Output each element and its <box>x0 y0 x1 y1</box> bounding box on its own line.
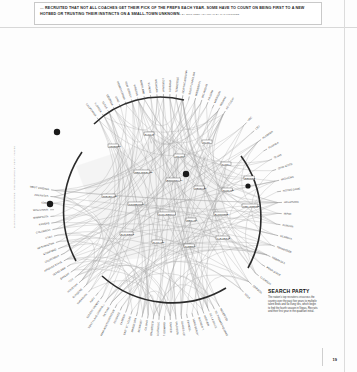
headline-line-1: … RECRUITED THAT NOT ALL COACHES GET THE… <box>40 6 284 10</box>
edge <box>241 142 276 224</box>
arc-tick <box>201 100 202 104</box>
arc-label: MISSISSIPPI <box>194 80 202 96</box>
arc-label: EVANGEL <box>186 320 192 333</box>
hub-node: TAMPA <box>221 162 231 166</box>
arc-label: UTAH <box>45 234 53 240</box>
arc-tick <box>115 304 117 308</box>
arc-tick <box>110 302 112 305</box>
arc-tick <box>268 159 272 161</box>
arc-tick <box>51 222 55 223</box>
arc-label: MICHIGAN <box>281 175 295 182</box>
arc-tick <box>56 241 60 242</box>
arc-label: FLORIDA <box>268 140 280 149</box>
hub-node-label: TAMPA <box>222 163 230 166</box>
hub-node-label: CLEVELAND <box>103 195 117 198</box>
hub-node-label: NEW ORLEANS <box>135 171 153 174</box>
arc-tick <box>75 275 78 277</box>
arc-tick <box>244 123 247 126</box>
page-number: 19 <box>333 357 337 362</box>
hub-node: PHILADELPHIA <box>158 212 176 216</box>
hub-node-label: ATLANTA <box>175 155 186 158</box>
arc-tick <box>71 270 74 272</box>
arc-label: MARYLAND <box>139 80 146 95</box>
arc-tick <box>148 315 149 319</box>
arc-tick <box>131 311 132 315</box>
arc-label: OKLAHOMA <box>200 83 209 98</box>
folio-divider <box>322 348 323 366</box>
hub-node-label: PHILADELPHIA <box>159 213 177 216</box>
arc-tick <box>150 95 151 99</box>
arc-tick <box>267 255 271 257</box>
hub-node-label: DALLAS <box>145 133 155 136</box>
hub-node: MIAMI <box>202 140 212 144</box>
arc-label: BERGEN CATHOLIC <box>155 322 161 336</box>
arc-tick <box>251 131 254 134</box>
hub-node-label: MEMPHIS <box>195 187 207 190</box>
arc-label: STANFORD <box>42 247 57 256</box>
hub-node-label: BIRMINGHAM <box>167 179 183 182</box>
arc-tick <box>212 105 214 109</box>
edge <box>67 257 170 316</box>
arc-label: GEORGIA <box>280 234 293 241</box>
arc-tick <box>64 259 68 261</box>
arc-label: OREGON <box>252 284 263 295</box>
arc-label: WEST VIRGINIA <box>30 185 50 192</box>
arc-label: TCU <box>68 277 75 284</box>
edge <box>58 232 101 259</box>
arc-label: VALDOSTA <box>175 321 180 335</box>
hub-node-label: PITTSBURGH <box>129 203 145 206</box>
arc-tick <box>223 111 225 114</box>
hub-node: CHICAGO <box>222 188 234 192</box>
hub-node: SAN DIEGO <box>120 232 134 236</box>
hub-node: BALTIMORE <box>214 212 229 216</box>
arc-label: GILMAN <box>143 320 149 331</box>
arc-label: MINNESOTA <box>33 214 49 219</box>
arc-tick <box>203 310 204 314</box>
arc-tick <box>126 309 127 313</box>
arc-label: NORTH CAROLINA <box>181 70 188 94</box>
side-credit: DIAGRAM BY CATALOGTREE · PHOTOGRAPHS BY … <box>13 127 15 247</box>
arc-label: DON BOSCO <box>149 321 155 336</box>
hub-node: LOS ANGELES <box>242 204 260 208</box>
magazine-page: … RECRUITED THAT NOT ALL COACHES GET THE… <box>0 0 357 372</box>
arc-label: INDIANA <box>219 95 228 106</box>
arc-tick <box>192 313 193 317</box>
hub-node: DALLAS <box>144 132 154 136</box>
arc-tick <box>218 303 220 307</box>
arc-tick <box>182 95 183 99</box>
gutter-divider <box>344 0 345 372</box>
edge <box>203 276 249 310</box>
arc-tick <box>256 273 259 275</box>
arc-tick <box>264 149 267 151</box>
arc-label: CLEMSON <box>259 275 272 286</box>
hub-node: NEW ORLEANS <box>134 170 153 174</box>
arc-tick <box>79 280 82 283</box>
arc-label: SOUTH CAROLINA <box>187 71 196 95</box>
hub-node: PHOENIX <box>184 244 196 248</box>
arc-tick <box>258 140 261 142</box>
arc-label: LOUISIANA <box>161 78 165 92</box>
arc-tick <box>88 289 91 292</box>
arc-tick <box>52 229 56 230</box>
arc-tick <box>274 235 278 236</box>
hub-node-label: OAKLAND <box>153 241 165 244</box>
arc-tick <box>181 315 182 319</box>
arc-tick <box>105 299 107 302</box>
arc-label: NOTRE DAME <box>283 186 301 192</box>
arc-label: OKLAHOMA <box>284 200 299 204</box>
hub-node-label: DETROIT <box>245 177 256 180</box>
hub-node: BIRMINGHAM <box>166 178 182 182</box>
byline: BY ERIC NEEL | DIAGRAM BY CATALOGTREE <box>182 13 239 16</box>
hub-node-label: HOUSTON <box>109 145 121 148</box>
arc-label: LSU <box>254 124 261 130</box>
arc-label: MIAMI <box>284 211 292 216</box>
arc-tick <box>249 282 252 285</box>
hub-node-label: BALTIMORE <box>215 213 229 216</box>
arc-tick <box>208 308 210 312</box>
arc-tick <box>136 312 137 316</box>
arc-tick <box>271 245 275 246</box>
arc-tick <box>54 235 58 236</box>
caption-block: SEARCH PARTY The nation’s top recruiters… <box>268 288 318 314</box>
hub-node-label: LAS VEGAS <box>217 237 231 240</box>
arc-tick <box>197 311 198 315</box>
